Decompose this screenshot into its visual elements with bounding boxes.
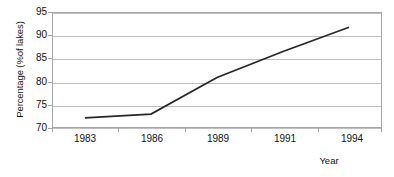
gridline-75 xyxy=(53,106,381,107)
y-tick-label-90: 90 xyxy=(25,30,47,40)
gridline-90 xyxy=(53,36,381,37)
x-tick-mark-5 xyxy=(381,128,382,132)
y-tick-label-70: 70 xyxy=(25,123,47,133)
y-tick-label-85: 85 xyxy=(25,53,47,63)
x-tick-label-1994: 1994 xyxy=(322,133,382,144)
gridline-80 xyxy=(53,83,381,84)
x-tick-mark-4 xyxy=(318,128,319,132)
y-tick-label-75: 75 xyxy=(25,100,47,110)
y-tick-label-80: 80 xyxy=(25,77,47,87)
y-tick-mark-90 xyxy=(48,35,52,36)
line-chart: Percentage (%of lakes) 95 90 85 80 75 70… xyxy=(0,0,394,177)
y-tick-mark-75 xyxy=(48,105,52,106)
gridline-85 xyxy=(53,59,381,60)
x-tick-mark-3 xyxy=(251,128,252,132)
x-axis-title: Year xyxy=(296,155,362,166)
x-tick-label-1986: 1986 xyxy=(122,133,182,144)
y-tick-mark-80 xyxy=(48,82,52,83)
x-tick-mark-1 xyxy=(118,128,119,132)
x-tick-mark-0 xyxy=(52,128,53,132)
y-tick-label-95: 95 xyxy=(25,7,47,17)
y-tick-mark-95 xyxy=(48,12,52,13)
x-tick-label-1989: 1989 xyxy=(188,133,248,144)
y-tick-mark-85 xyxy=(48,58,52,59)
gridline-95 xyxy=(53,13,381,14)
gridline-70 xyxy=(53,128,381,129)
x-tick-mark-2 xyxy=(185,128,186,132)
x-tick-label-1983: 1983 xyxy=(55,133,115,144)
y-axis-title: Percentage (%of lakes) xyxy=(14,0,25,140)
x-tick-label-1991: 1991 xyxy=(255,133,315,144)
plot-area xyxy=(52,12,382,128)
